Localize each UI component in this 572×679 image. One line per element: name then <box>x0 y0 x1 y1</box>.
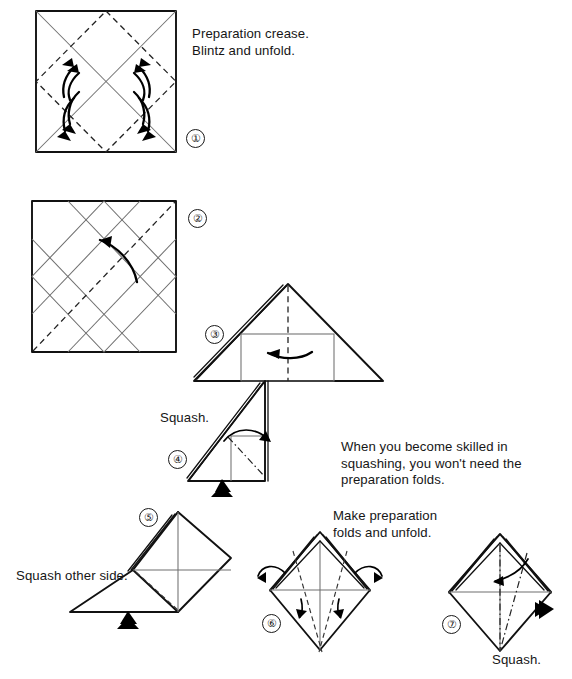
step-number-7: ⑦ <box>442 615 461 634</box>
origami-diagram-sheet: ① Preparation crease. Blintz and unfold.… <box>0 0 572 679</box>
step-7-figure <box>0 0 572 679</box>
caption-step-7: Squash. <box>492 652 541 669</box>
